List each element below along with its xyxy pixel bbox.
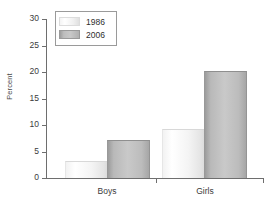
- y-axis-title: Percent: [5, 57, 14, 117]
- y-tick-5: 5: [0, 152, 46, 153]
- y-tick-label-30: 30: [30, 13, 39, 24]
- y-tick-label-15: 15: [30, 93, 39, 104]
- y-tick-label-10: 10: [30, 119, 39, 130]
- y-tick-25: 25: [0, 46, 46, 47]
- y-tick-30: 30: [0, 19, 46, 20]
- x-tick-mark-right-end: [263, 179, 264, 183]
- y-tick-10: 10: [0, 125, 46, 126]
- bar-girls-2006: [204, 71, 247, 178]
- y-tick-label-0: 0: [34, 172, 39, 183]
- bar-girls-1986: [162, 129, 205, 178]
- legend-entry-2006: 2006: [59, 28, 113, 41]
- x-axis-line: [46, 178, 264, 179]
- x-tick-mark-group-divider: [156, 179, 157, 183]
- x-label-boys: Boys: [98, 186, 117, 196]
- legend-label-2006: 2006: [86, 30, 105, 40]
- y-tick-label-5: 5: [34, 146, 39, 157]
- y-tick-label-20: 20: [30, 66, 39, 77]
- x-label-girls: Girls: [196, 186, 213, 196]
- legend-entry-1986: 1986: [59, 15, 113, 28]
- legend: 1986 2006: [55, 11, 117, 46]
- legend-label-1986: 1986: [86, 17, 105, 27]
- y-tick-label-25: 25: [30, 40, 39, 51]
- y-tick-0: 0: [0, 178, 46, 179]
- y-tick-20: 20: [0, 72, 46, 73]
- legend-swatch-1986-icon: [59, 17, 80, 26]
- bar-boys-1986: [65, 161, 108, 178]
- legend-swatch-2006-icon: [59, 30, 80, 39]
- bar-boys-2006: [107, 140, 150, 178]
- bar-chart: Percent 30 25 20 15 10 5 0: [0, 0, 273, 206]
- y-tick-15: 15: [0, 99, 46, 100]
